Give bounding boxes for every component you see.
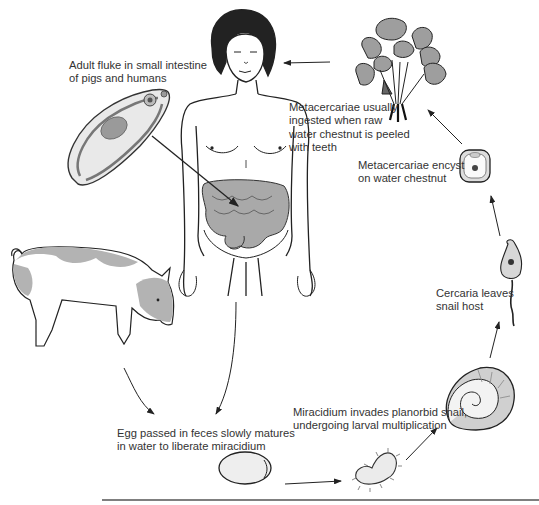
life-cycle-diagram: Adult fluke in small intestine of pigs a… (0, 0, 539, 505)
pointer-arrow (152, 136, 238, 206)
label-metacercariae-encyst: Metacercariae encyst on water chestnut (358, 159, 464, 186)
label-egg: Egg passed in feces slowly matures in wa… (117, 427, 295, 454)
arrow-snail-to-cercaria (490, 322, 499, 358)
arrow-pig-to-egg (124, 368, 154, 414)
label-adult-fluke: Adult fluke in small intestine of pigs a… (69, 59, 207, 86)
metacercaria-cyst-illustration (460, 150, 490, 182)
arrow-cercaria-to-cyst (491, 196, 500, 236)
arrow-egg-to-miracidium (285, 481, 341, 484)
egg-illustration (219, 452, 271, 484)
miracidium-illustration (352, 448, 402, 492)
arrow-plant-to-human (284, 62, 330, 63)
arrow-cyst-to-plant (428, 110, 462, 144)
arrow-human-to-egg (216, 302, 236, 414)
label-cercaria: Cercaria leaves snail host (436, 287, 514, 314)
label-metacercariae-ingested: Metacercariae usually ingested when raw … (289, 101, 410, 155)
label-miracidium: Miracidium invades planorbid snail, unde… (293, 406, 467, 433)
pig-illustration (12, 247, 174, 346)
intestine (202, 180, 289, 249)
